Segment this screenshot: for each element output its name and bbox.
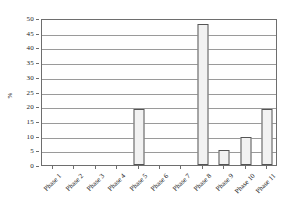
- y-tick-mark: [36, 34, 39, 35]
- x-tick-label: Phase 10: [233, 172, 256, 195]
- x-axis: Phase 1Phase 2Phase 3Phase 4Phase 5Phase…: [41, 166, 277, 207]
- bar-slot: [63, 20, 84, 165]
- y-tick-mark: [36, 151, 39, 152]
- x-tick-label: Phase 8: [193, 172, 214, 193]
- bar-slot: [85, 20, 106, 165]
- bar-slot: [214, 20, 235, 165]
- y-tick-mark: [36, 63, 39, 64]
- y-tick-mark: [36, 137, 39, 138]
- x-tick-mark: [245, 166, 246, 169]
- y-tick-mark: [36, 19, 39, 20]
- y-tick-label: 15: [27, 118, 34, 125]
- bar-slot: [149, 20, 170, 165]
- y-tick-label: 35: [27, 60, 34, 67]
- x-tick-label: Phase 2: [64, 172, 85, 193]
- x-tick-mark: [116, 166, 117, 169]
- x-tick-label: Phase 4: [107, 172, 128, 193]
- x-tick-mark: [138, 166, 139, 169]
- plot-area: [41, 19, 277, 166]
- y-tick-label: 0: [30, 163, 34, 170]
- x-tick-mark: [52, 166, 53, 169]
- x-tick-mark: [223, 166, 224, 169]
- bar-chart: % 05101520253035404550 Phase 1Phase 2Pha…: [0, 0, 301, 207]
- y-tick-label: 45: [27, 30, 34, 37]
- bar-slot: [106, 20, 127, 165]
- bar[interactable]: [240, 137, 251, 165]
- x-tick-label: Phase 9: [214, 172, 235, 193]
- y-tick-label: 25: [27, 89, 34, 96]
- y-tick-label: 20: [27, 104, 34, 111]
- y-tick-label: 50: [27, 16, 34, 23]
- bar-slot: [171, 20, 192, 165]
- bar-slot: [128, 20, 149, 165]
- x-tick-mark: [159, 166, 160, 169]
- y-tick-label: 40: [27, 45, 34, 52]
- y-tick-mark: [36, 78, 39, 79]
- x-tick-mark: [95, 166, 96, 169]
- y-tick-label: 30: [27, 74, 34, 81]
- y-tick-mark: [36, 48, 39, 49]
- bar[interactable]: [133, 109, 144, 165]
- bars-layer: [42, 20, 276, 165]
- x-tick-label: Phase 7: [171, 172, 192, 193]
- x-tick-mark: [73, 166, 74, 169]
- bar-slot: [192, 20, 213, 165]
- x-tick-label: Phase 5: [128, 172, 149, 193]
- x-tick-label: Phase 3: [85, 172, 106, 193]
- y-tick-label: 10: [27, 133, 34, 140]
- x-tick-label: Phase 11: [255, 172, 278, 195]
- x-tick-label: Phase 6: [150, 172, 171, 193]
- y-axis: 05101520253035404550: [0, 19, 38, 166]
- bar[interactable]: [262, 109, 273, 165]
- y-tick-mark: [36, 93, 39, 94]
- bar-slot: [257, 20, 278, 165]
- bar[interactable]: [219, 150, 230, 165]
- bar-slot: [42, 20, 63, 165]
- bar[interactable]: [197, 24, 208, 165]
- x-tick-mark: [202, 166, 203, 169]
- y-tick-mark: [36, 107, 39, 108]
- x-tick-mark: [180, 166, 181, 169]
- y-tick-mark: [36, 122, 39, 123]
- y-tick-label: 5: [30, 148, 34, 155]
- bar-slot: [235, 20, 256, 165]
- x-tick-mark: [266, 166, 267, 169]
- x-tick-label: Phase 1: [42, 172, 63, 193]
- y-tick-mark: [36, 166, 39, 167]
